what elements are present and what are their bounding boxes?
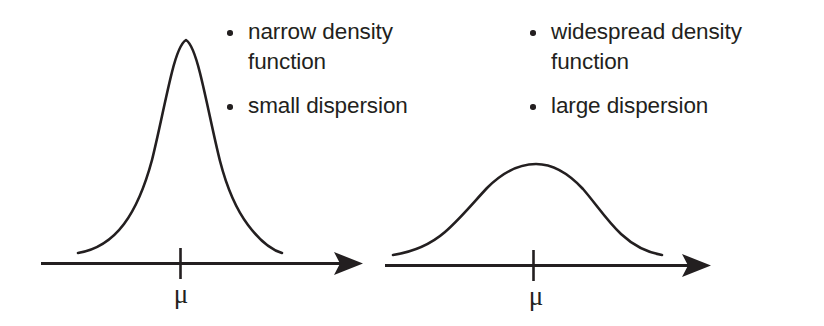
narrow-bullet-list: narrow density function small dispersion: [222, 17, 432, 121]
bullet-dot-icon: [227, 30, 233, 36]
list-item-label: small dispersion: [248, 91, 432, 121]
density-comparison-figure: narrow density function small dispersion…: [0, 0, 824, 326]
widespread-bullet-list: widespread density function large disper…: [525, 17, 805, 121]
widespread-density-curve: [393, 164, 662, 255]
widespread-panel-graphics: [385, 164, 711, 281]
list-item: widespread density function: [525, 17, 805, 77]
list-item-label: widespread density function: [551, 17, 805, 77]
widespread-mean-label: μ: [516, 283, 556, 310]
bullet-dot-icon: [227, 104, 233, 110]
list-item: small dispersion: [222, 91, 432, 121]
bullet-dot-icon: [530, 104, 536, 110]
list-item: large dispersion: [525, 91, 805, 121]
bullet-dot-icon: [530, 30, 536, 36]
list-item-label: narrow density function: [248, 17, 432, 77]
narrow-mean-label: μ: [161, 281, 201, 308]
list-item: narrow density function: [222, 17, 432, 77]
list-item-label: large dispersion: [551, 91, 805, 121]
